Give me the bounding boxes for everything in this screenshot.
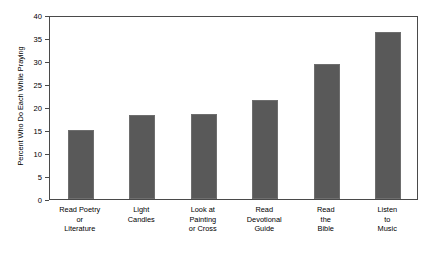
y-tick-label: 0	[38, 196, 42, 205]
y-tick-label: 15	[34, 127, 42, 136]
y-tick-label: 5	[38, 173, 42, 182]
y-tick-label: 25	[34, 81, 42, 90]
x-axis-label: Look at Painting or Cross	[172, 205, 234, 234]
x-axis-label: Read the Bible	[295, 205, 357, 234]
bar	[314, 64, 340, 199]
bar	[129, 115, 155, 199]
bar	[375, 32, 401, 199]
x-axis-label: Read Poetry or Literature	[49, 205, 111, 234]
y-tick-label: 20	[34, 104, 42, 113]
bar	[68, 130, 94, 199]
bar	[252, 100, 278, 199]
y-axis-title: Percent Who Do Each While Praying	[14, 6, 28, 206]
x-axis-label: Listen to Music	[357, 205, 419, 234]
y-tick-label: 10	[34, 150, 42, 159]
y-tick-label: 40	[34, 12, 42, 21]
plot-area	[49, 16, 418, 200]
bar	[191, 114, 217, 199]
y-tick-label: 30	[34, 58, 42, 67]
x-axis-label: Light Candles	[111, 205, 173, 224]
y-tick-label: 35	[34, 35, 42, 44]
y-tick-mark	[45, 200, 49, 201]
bar-chart: Percent Who Do Each While Praying 051015…	[0, 0, 435, 260]
x-axis-label: Read Devotional Guide	[234, 205, 296, 234]
